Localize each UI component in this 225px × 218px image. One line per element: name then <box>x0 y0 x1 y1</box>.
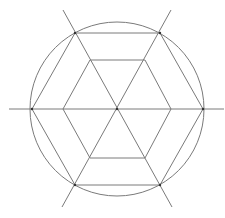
vertex-dot <box>202 108 204 110</box>
vertex-dot <box>31 108 33 110</box>
vertex-dot <box>116 108 118 110</box>
hexagon-diagram <box>0 0 225 218</box>
vertex-dot <box>74 32 76 34</box>
vertex-dot <box>159 32 161 34</box>
vertex-dot <box>159 184 161 186</box>
vertex-dot <box>74 184 76 186</box>
